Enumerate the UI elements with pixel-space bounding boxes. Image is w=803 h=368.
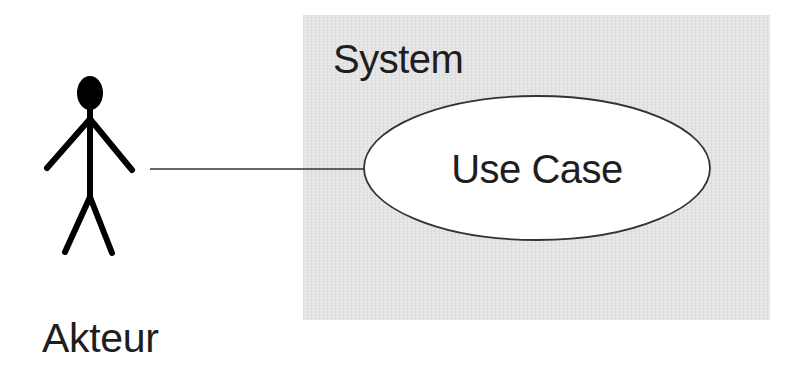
stick-figure-icon [47, 76, 132, 253]
actor-label: Akteur [42, 318, 159, 359]
actor-left-leg [65, 197, 90, 252]
actor-left-arm [47, 119, 90, 168]
use-case-label: Use Case [364, 96, 710, 240]
actor-right-leg [90, 197, 112, 253]
actor-right-arm [90, 119, 132, 170]
use-case-text: Use Case [451, 147, 623, 192]
actor-head [77, 76, 103, 110]
